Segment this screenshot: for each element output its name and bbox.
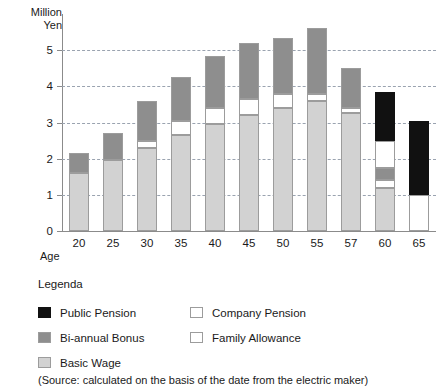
x-axis-tick-label: 45	[243, 237, 256, 249]
y-axis-tick-label: 4	[47, 80, 53, 92]
legend-item[interactable]: Public Pension	[38, 300, 144, 325]
bar-segment-bonus	[239, 43, 259, 99]
y-axis-tick	[57, 231, 62, 232]
legend-item-label: Public Pension	[60, 307, 136, 319]
x-axis-tick-label: 65	[413, 237, 426, 249]
x-axis-tick-label: 60	[379, 237, 392, 249]
x-axis-tick-label: 20	[73, 237, 86, 249]
bar-segment-company	[375, 180, 395, 187]
y-axis-tick-label: 5	[47, 44, 53, 56]
x-axis-line	[62, 231, 436, 232]
bar-segment-bonus	[103, 133, 123, 160]
bar-segment-family	[375, 141, 395, 168]
legend-swatch-icon	[38, 357, 51, 368]
x-axis-tick-label: 57	[345, 237, 358, 249]
legend-column-right: Company PensionFamily Allowance	[190, 300, 306, 350]
bar-segment-public	[409, 121, 429, 195]
bar-45	[239, 14, 259, 231]
bar-segment-public	[375, 92, 395, 141]
legend-item[interactable]: Bi-annual Bonus	[38, 325, 144, 350]
bar-segment-bonus	[273, 38, 293, 94]
legend-item-label: Company Pension	[212, 307, 306, 319]
bar-segment-basic	[341, 113, 361, 231]
legend-swatch-icon	[190, 307, 203, 318]
y-axis-tick	[57, 86, 62, 87]
bar-segment-bonus	[171, 77, 191, 120]
legend-item-label: Bi-annual Bonus	[60, 332, 144, 344]
bar-60	[375, 14, 395, 231]
legend-swatch-icon	[38, 307, 51, 318]
legend-title: Legenda	[38, 278, 368, 290]
bar-segment-bonus	[307, 28, 327, 93]
bar-50	[273, 14, 293, 231]
bar-segment-basic	[103, 160, 123, 231]
legend-swatch-icon	[190, 332, 203, 343]
legend-item[interactable]: Basic Wage	[38, 350, 144, 375]
bar-segment-basic	[171, 135, 191, 231]
bar-segment-family	[205, 108, 225, 124]
bar-segment-bonus	[137, 101, 157, 141]
bar-segment-family	[239, 99, 259, 115]
source-note: (Source: calculated on the basis of the …	[38, 374, 368, 386]
y-axis-tick-label: 3	[47, 117, 53, 129]
bar-segment-basic	[205, 124, 225, 231]
bar-segment-basic	[307, 101, 327, 231]
y-axis-tick	[57, 50, 62, 51]
bar-25	[103, 14, 123, 231]
x-axis-tick-label: 40	[209, 237, 222, 249]
bar-segment-family	[137, 141, 157, 148]
legend: Legenda Public PensionBi-annual BonusBas…	[38, 278, 368, 299]
x-axis-tick-label: 30	[141, 237, 154, 249]
y-axis-tick-label: 2	[47, 153, 53, 165]
y-axis-tick	[57, 123, 62, 124]
bar-65	[409, 14, 429, 231]
bar-segment-company	[409, 195, 429, 231]
bar-55	[307, 14, 327, 231]
bar-segment-bonus	[205, 56, 225, 108]
bar-segment-family	[273, 94, 293, 108]
legend-swatch-icon	[38, 332, 51, 343]
bar-57	[341, 14, 361, 231]
bar-segment-basic	[375, 188, 395, 231]
y-axis-tick	[57, 159, 62, 160]
bar-segment-family	[307, 94, 327, 101]
bar-segment-family	[341, 108, 361, 113]
x-axis-tick-label: 35	[175, 237, 188, 249]
legend-item-label: Basic Wage	[60, 357, 121, 369]
bar-segment-family	[171, 121, 191, 135]
bar-segment-basic	[239, 115, 259, 231]
x-axis-tick-label: 55	[311, 237, 324, 249]
x-axis-tick-label: 50	[277, 237, 290, 249]
bar-segment-bonus	[69, 153, 89, 173]
legend-item[interactable]: Company Pension	[190, 300, 306, 325]
plot-area: 012345	[62, 14, 436, 231]
bar-segment-basic	[69, 173, 89, 231]
bar-30	[137, 14, 157, 231]
y-axis-tick-label: 1	[47, 189, 53, 201]
x-axis-tick-label: 25	[107, 237, 120, 249]
y-axis-title: Million Yen	[6, 6, 62, 31]
legend-column-left: Public PensionBi-annual BonusBasic Wage	[38, 300, 144, 375]
bar-segment-bonus	[341, 68, 361, 108]
y-axis-tick	[57, 195, 62, 196]
bar-40	[205, 14, 225, 231]
bar-segment-basic	[137, 148, 157, 231]
stacked-bar-chart: Million Yen 012345 Age 20253035404550555…	[0, 0, 443, 270]
y-axis-tick-label: 0	[47, 225, 53, 237]
bar-segment-basic	[273, 108, 293, 231]
bar-segment-bonus	[375, 168, 395, 181]
bar-20	[69, 14, 89, 231]
legend-item-label: Family Allowance	[212, 332, 301, 344]
x-axis-title: Age	[40, 250, 80, 263]
bar-35	[171, 14, 191, 231]
legend-item[interactable]: Family Allowance	[190, 325, 306, 350]
